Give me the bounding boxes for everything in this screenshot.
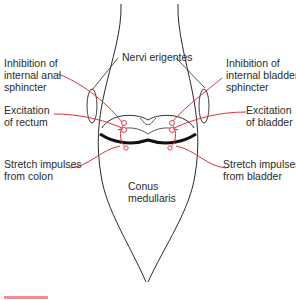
label-conus-medullaris: Conus medullaris — [128, 180, 176, 204]
cord-section-top — [102, 115, 194, 128]
spinal-reflex-diagram: Nervi erigentes Inhibition of internal a… — [0, 0, 296, 300]
cord-section-band — [100, 134, 196, 143]
label-excitation-rectum: Excitation of rectum — [4, 104, 50, 128]
left-neuron-bodies — [122, 121, 129, 151]
diagram-artwork — [0, 0, 296, 300]
label-inhibition-bladder: Inhibition of internal bladder sphincter — [226, 57, 296, 93]
cord-central-notch — [140, 118, 156, 125]
cord-gray-matter — [118, 128, 178, 134]
label-inhibition-anal: Inhibition of internal anal sphincter — [4, 57, 61, 93]
label-stretch-colon: Stretch impulses from colon — [4, 158, 82, 182]
nervi-pointer-left — [92, 58, 118, 90]
label-nervi-erigentes: Nervi erigentes — [122, 51, 193, 63]
label-excitation-bladder: Excitation of bladder — [246, 104, 293, 128]
label-stretch-bladder: Stretch impulses from bladder — [223, 158, 296, 182]
right-neuron-bodies — [168, 121, 175, 151]
red-footer-mark — [4, 296, 48, 299]
